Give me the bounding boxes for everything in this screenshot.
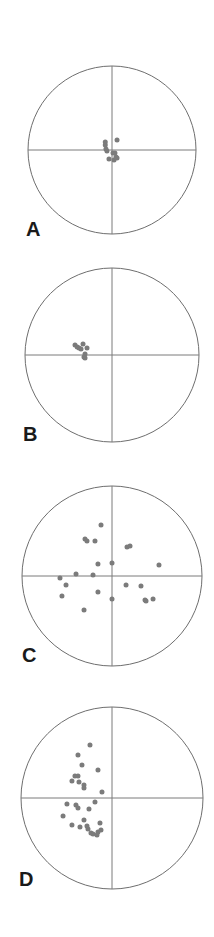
panel-label-b: B [23, 424, 37, 444]
data-point [99, 522, 104, 527]
data-point [124, 583, 129, 588]
data-point [75, 752, 80, 757]
data-point [86, 807, 91, 812]
data-point [85, 346, 90, 351]
data-point [151, 597, 156, 602]
data-point [138, 583, 143, 588]
data-point [95, 562, 100, 567]
data-point [128, 544, 133, 549]
panel-label-d: D [19, 869, 33, 889]
data-points-b [73, 342, 90, 361]
data-point [61, 814, 66, 819]
data-point [64, 583, 69, 588]
data-point [99, 789, 104, 794]
data-point [81, 818, 86, 823]
data-point [75, 806, 80, 811]
data-point [106, 156, 111, 161]
stereonet-plot-d [0, 680, 214, 937]
data-point [81, 785, 86, 790]
panel-label-a: A [26, 219, 40, 239]
stereonet-panel-d: D [0, 680, 214, 937]
data-point [84, 538, 89, 543]
stereonet-panel-c: C [0, 455, 214, 680]
data-point [79, 347, 84, 352]
data-point [84, 824, 89, 829]
data-point [104, 149, 109, 154]
data-point [64, 802, 69, 807]
data-point [69, 778, 74, 783]
data-point [79, 762, 84, 767]
stereonet-panel-b: B [0, 240, 214, 455]
stereonet-figure: A B C [0, 0, 214, 937]
data-point [59, 593, 64, 598]
data-point [75, 773, 80, 778]
data-point [98, 828, 103, 833]
panel-label-c: C [22, 645, 36, 665]
net-frame-c [22, 486, 202, 666]
data-points-c [57, 522, 161, 612]
net-frame-d [21, 707, 203, 889]
data-point [69, 823, 74, 828]
data-point [97, 821, 102, 826]
data-point [94, 833, 99, 838]
data-point [115, 137, 120, 142]
data-point [81, 342, 86, 347]
stereonet-plot-a [0, 0, 214, 240]
data-point [57, 575, 62, 580]
data-point [95, 767, 100, 772]
data-point [92, 538, 97, 543]
net-frame-b [25, 268, 199, 442]
data-point [110, 561, 115, 566]
data-point [92, 800, 97, 805]
stereonet-panel-a: A [0, 0, 214, 240]
data-point [76, 779, 81, 784]
data-point [95, 590, 100, 595]
data-point [74, 572, 79, 577]
data-point [82, 608, 87, 613]
data-point [144, 599, 149, 604]
data-point [156, 563, 161, 568]
data-point [110, 597, 115, 602]
data-point [87, 743, 92, 748]
data-point [77, 825, 82, 830]
data-point [83, 355, 88, 360]
net-frame-a [28, 66, 196, 234]
data-point [91, 573, 96, 578]
data-points-d [61, 743, 105, 838]
data-point [114, 154, 119, 159]
